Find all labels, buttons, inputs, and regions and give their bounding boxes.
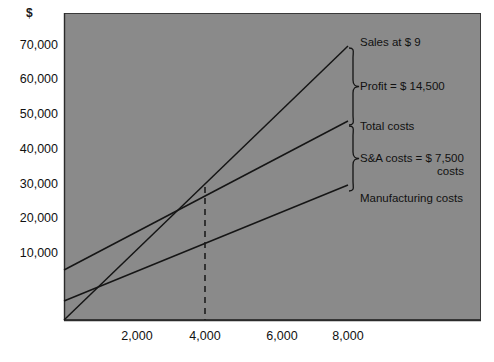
annotation-manufacturing-costs: Manufacturing costs bbox=[360, 192, 463, 205]
y-tick-label: 60,000 bbox=[0, 73, 58, 85]
annotation-total-costs: Total costs bbox=[360, 120, 414, 133]
annotation-sa-costs-line1: S&A costs = $ 7,500 bbox=[360, 152, 464, 164]
y-tick-label: 20,000 bbox=[0, 212, 58, 224]
x-tick-label: 4,000 bbox=[175, 330, 235, 343]
breakeven-chart: $ 70,000 60,000 50,000 40,000 30,000 20,… bbox=[0, 0, 494, 362]
annotation-profit: Profit = $ 14,500 bbox=[360, 80, 445, 93]
annotation-sales-at-9: Sales at $ 9 bbox=[360, 36, 421, 49]
annotation-sa-costs: S&A costs = $ 7,500 costs bbox=[360, 152, 464, 178]
y-tick-label: 30,000 bbox=[0, 178, 58, 190]
x-tick-label: 8,000 bbox=[318, 330, 378, 343]
y-axis-tick-labels: 70,000 60,000 50,000 40,000 30,000 20,00… bbox=[0, 0, 58, 362]
y-tick-label: 50,000 bbox=[0, 108, 58, 120]
y-tick-label: 70,000 bbox=[0, 39, 58, 51]
x-tick-label: 6,000 bbox=[252, 330, 312, 343]
y-tick-label: 10,000 bbox=[0, 247, 58, 259]
y-tick-label: 40,000 bbox=[0, 143, 58, 155]
x-tick-label: 2,000 bbox=[107, 330, 167, 343]
annotation-sa-costs-line2: costs bbox=[360, 165, 464, 178]
